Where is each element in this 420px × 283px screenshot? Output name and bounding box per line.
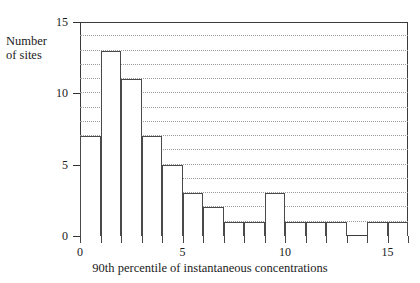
x-axis-tick-mark — [80, 236, 81, 243]
histogram-bar — [162, 165, 183, 236]
x-axis-tick-mark — [306, 236, 307, 243]
histogram-bar — [367, 222, 388, 236]
x-axis-tick-mark — [162, 236, 163, 243]
x-axis-tick-mark — [183, 236, 184, 243]
x-axis-tick-mark — [388, 236, 389, 243]
histogram-bar — [306, 222, 327, 236]
histogram-bar — [80, 136, 101, 236]
x-axis-tick-label: 5 — [180, 245, 186, 260]
x-axis-tick-mark — [203, 236, 204, 243]
histogram-bar — [203, 207, 224, 236]
y-axis-tick-mark — [73, 22, 80, 23]
histogram-bar — [121, 79, 142, 236]
x-axis-tick-label: 10 — [279, 245, 291, 260]
y-axis: 051015 — [0, 22, 80, 236]
x-axis-tick-mark — [101, 236, 102, 243]
bars-layer — [80, 22, 408, 236]
x-axis-tick-mark — [265, 236, 266, 243]
x-axis: 051015 — [80, 236, 408, 262]
histogram-bar — [265, 193, 286, 236]
y-axis-tick-mark — [73, 165, 80, 166]
x-axis-tick-mark — [142, 236, 143, 243]
x-axis-tick-mark — [367, 236, 368, 243]
x-axis-tick-mark — [121, 236, 122, 243]
x-axis-title: 90th percentile of instantaneous concent… — [0, 261, 420, 276]
x-axis-tick-mark — [326, 236, 327, 243]
histogram-figure: Number of sites 051015 051015 90th perce… — [0, 0, 420, 283]
x-axis-tick-mark — [408, 236, 409, 243]
y-axis-tick-mark — [73, 236, 80, 237]
y-axis-tick-label: 5 — [62, 157, 68, 172]
histogram-bar — [101, 51, 122, 236]
x-axis-tick-mark — [285, 236, 286, 243]
histogram-bar — [326, 222, 347, 236]
y-axis-tick-label: 10 — [56, 86, 68, 101]
histogram-bar — [285, 222, 306, 236]
x-axis-tick-label: 0 — [77, 245, 83, 260]
x-axis-tick-mark — [347, 236, 348, 243]
histogram-bar — [224, 222, 245, 236]
histogram-bar — [183, 193, 204, 236]
histogram-bar — [244, 222, 265, 236]
plot-area — [80, 22, 408, 236]
histogram-bar — [142, 136, 163, 236]
x-axis-tick-mark — [244, 236, 245, 243]
y-axis-tick-label: 15 — [56, 15, 68, 30]
x-axis-tick-label: 15 — [382, 245, 394, 260]
y-axis-tick-mark — [73, 93, 80, 94]
histogram-bar — [388, 222, 409, 236]
y-axis-tick-label: 0 — [62, 229, 68, 244]
x-axis-tick-mark — [224, 236, 225, 243]
